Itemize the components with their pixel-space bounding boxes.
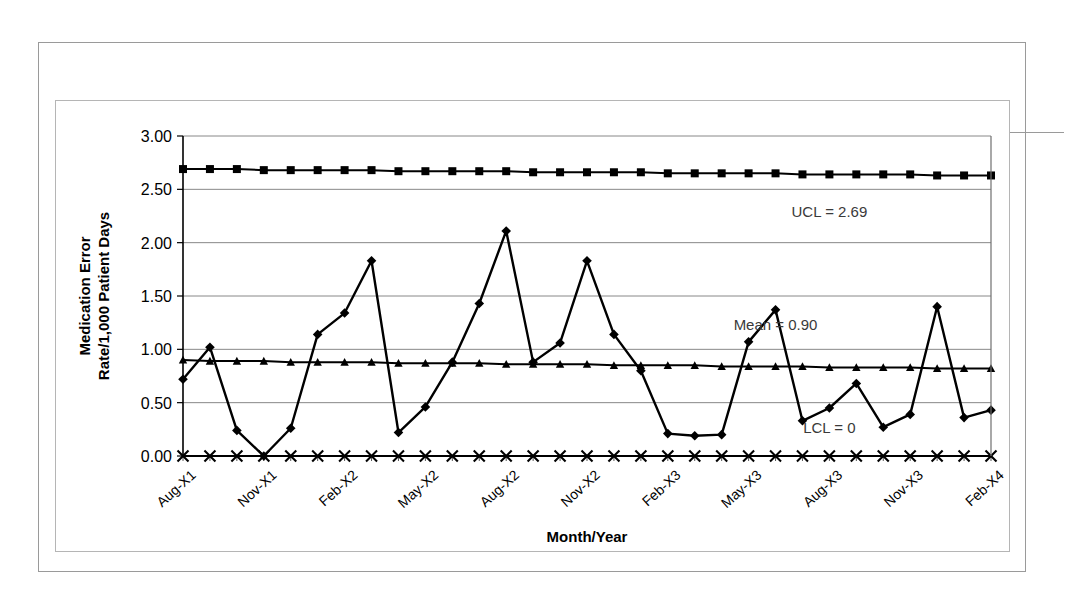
x-tick-label: Nov-X1 bbox=[234, 467, 280, 510]
y-tick-label: 2.50 bbox=[141, 181, 172, 198]
data-series bbox=[178, 165, 997, 461]
gridlines bbox=[183, 136, 991, 456]
y-tick-label: 2.00 bbox=[141, 235, 172, 252]
y-axis-title-line: Rate/1,000 Patient Days bbox=[95, 212, 112, 380]
marker-square bbox=[314, 166, 322, 174]
x-tick-label: Feb-X2 bbox=[316, 467, 361, 510]
marker-diamond bbox=[932, 302, 942, 312]
x-tick-label: Nov-X2 bbox=[557, 467, 603, 510]
x-axis-ticks: Aug-X1Nov-X1Feb-X2May-X2Aug-X2Nov-X2Feb-… bbox=[153, 456, 1007, 511]
y-tick-label: 0.50 bbox=[141, 395, 172, 412]
x-tick-label: Aug-X3 bbox=[800, 467, 846, 510]
marker-diamond bbox=[690, 431, 700, 441]
series-ucl bbox=[179, 165, 995, 179]
y-axis-ticks: 0.000.501.001.502.002.503.00 bbox=[141, 128, 183, 465]
annotation-label: UCL = 2.69 bbox=[792, 203, 868, 220]
y-tick-label: 1.00 bbox=[141, 341, 172, 358]
marker-diamond bbox=[501, 226, 511, 236]
x-tick-label: Nov-X3 bbox=[881, 467, 927, 510]
marker-square bbox=[583, 168, 591, 176]
marker-square bbox=[852, 170, 860, 178]
marker-diamond bbox=[582, 256, 592, 266]
marker-square bbox=[394, 167, 402, 175]
marker-square bbox=[745, 169, 753, 177]
annotation-label: Mean = 0.90 bbox=[734, 316, 818, 333]
chart-annotations: UCL = 2.69Mean = 0.90LCL = 0 bbox=[734, 203, 868, 435]
x-axis-title: Month/Year bbox=[547, 528, 628, 545]
marker-square bbox=[610, 168, 618, 176]
marker-square bbox=[287, 166, 295, 174]
chart-card: 0.000.501.001.502.002.503.00 Aug-X1Nov-X… bbox=[55, 100, 1010, 552]
marker-square bbox=[879, 170, 887, 178]
annotation-label: LCL = 0 bbox=[803, 419, 855, 436]
marker-square bbox=[341, 166, 349, 174]
marker-square bbox=[825, 170, 833, 178]
marker-square bbox=[691, 169, 699, 177]
marker-square bbox=[798, 170, 806, 178]
y-tick-label: 1.50 bbox=[141, 288, 172, 305]
chart-svg: 0.000.501.001.502.002.503.00 Aug-X1Nov-X… bbox=[56, 101, 1011, 553]
marker-square bbox=[906, 170, 914, 178]
marker-diamond bbox=[474, 299, 484, 309]
y-tick-label: 3.00 bbox=[141, 128, 172, 145]
marker-diamond bbox=[663, 429, 673, 439]
marker-diamond bbox=[959, 413, 969, 423]
marker-square bbox=[475, 167, 483, 175]
marker-square bbox=[368, 166, 376, 174]
x-tick-label: Feb-X4 bbox=[962, 467, 1007, 510]
marker-square bbox=[637, 168, 645, 176]
control-chart: 0.000.501.001.502.002.503.00 Aug-X1Nov-X… bbox=[56, 101, 1011, 553]
marker-square bbox=[556, 168, 564, 176]
x-tick-label: Feb-X3 bbox=[639, 467, 684, 510]
x-tick-label: Aug-X1 bbox=[153, 467, 199, 510]
y-axis-title-line: Medication Error bbox=[76, 236, 93, 355]
marker-square bbox=[260, 166, 268, 174]
x-tick-label: May-X2 bbox=[395, 467, 442, 511]
marker-square bbox=[664, 169, 672, 177]
y-tick-label: 0.00 bbox=[141, 448, 172, 465]
series-medication-error-rate bbox=[178, 226, 996, 461]
marker-square bbox=[529, 168, 537, 176]
marker-square bbox=[960, 171, 968, 179]
marker-square bbox=[772, 169, 780, 177]
x-tick-label: Aug-X2 bbox=[477, 467, 523, 510]
series-mean bbox=[179, 356, 995, 372]
marker-diamond bbox=[367, 256, 377, 266]
marker-square bbox=[502, 167, 510, 175]
marker-square bbox=[206, 165, 214, 173]
marker-square bbox=[233, 165, 241, 173]
marker-diamond bbox=[717, 430, 727, 440]
marker-square bbox=[448, 167, 456, 175]
x-tick-label: May-X3 bbox=[718, 467, 765, 511]
marker-square bbox=[718, 169, 726, 177]
marker-diamond bbox=[905, 410, 915, 420]
marker-square bbox=[421, 167, 429, 175]
marker-square bbox=[933, 171, 941, 179]
